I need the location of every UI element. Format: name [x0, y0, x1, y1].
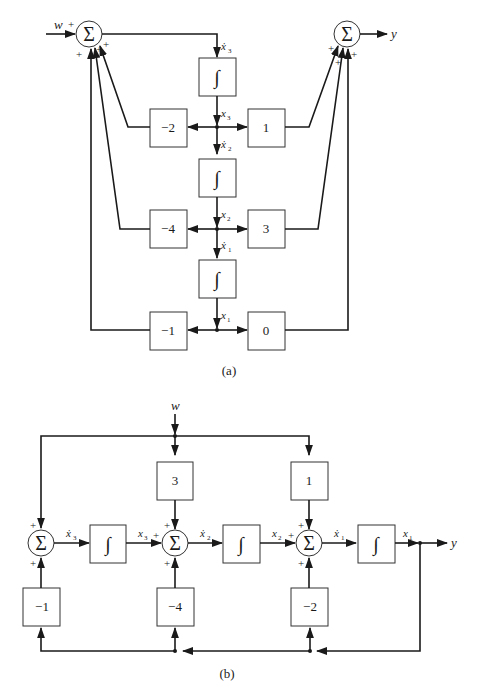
svg-text:1: 1: [227, 316, 231, 324]
gain-block-feedforward-3: 3: [157, 462, 193, 500]
gain-block-left-row2: −4: [150, 210, 187, 248]
sigma-icon: Σ: [341, 23, 353, 45]
svg-text:2: 2: [278, 534, 282, 542]
svg-text:0: 0: [263, 323, 270, 338]
summing-junction-3-b: Σ: [296, 530, 322, 556]
gain-block-feedforward-1: 1: [291, 462, 328, 500]
svg-text:x: x: [220, 208, 226, 220]
svg-text:3: 3: [263, 221, 270, 236]
input-label-a: w: [54, 17, 63, 32]
caption-b: (b): [219, 666, 234, 681]
sigma-icon: Σ: [169, 532, 181, 554]
plus-sign: +: [76, 48, 82, 60]
summing-junction-2-b: Σ: [162, 530, 188, 556]
svg-text:3: 3: [228, 47, 232, 55]
svg-text:1: 1: [306, 473, 313, 488]
svg-text:+: +: [298, 557, 304, 569]
output-label-b: y: [449, 535, 457, 550]
svg-text:2: 2: [228, 145, 232, 153]
block-diagrams: w + Σ + + + ẋ 3 ∫ x 3 −2 1: [0, 0, 483, 700]
svg-text:+: +: [288, 529, 294, 541]
svg-text:3: 3: [172, 473, 179, 488]
plus-sign: +: [68, 18, 74, 30]
svg-text:+: +: [30, 519, 36, 531]
gain-block-right-row3: 0: [248, 312, 285, 350]
svg-text:−4: −4: [168, 599, 182, 614]
gain-block-right-row1: 1: [248, 109, 285, 147]
input-label-b: w: [171, 398, 180, 413]
plus-sign: +: [103, 38, 109, 50]
integrator-block: ∫: [90, 525, 126, 563]
sigma-icon: Σ: [303, 532, 315, 554]
integrator-block: ∫: [358, 525, 395, 563]
svg-text:−2: −2: [161, 120, 175, 135]
svg-text:+: +: [153, 529, 159, 541]
svg-text:3: 3: [227, 114, 231, 122]
svg-text:ẋ: ẋ: [65, 527, 71, 539]
svg-text:ẋ: ẋ: [220, 239, 226, 251]
gain-block-feedback-1: −1: [23, 588, 60, 626]
output-label-a: y: [389, 26, 397, 41]
svg-text:x: x: [271, 527, 277, 539]
plus-sign: +: [351, 48, 357, 60]
svg-text:3: 3: [144, 534, 148, 542]
svg-text:ẋ: ẋ: [220, 138, 226, 150]
gain-block-left-row3: −1: [150, 312, 187, 350]
svg-text:+: +: [30, 557, 36, 569]
svg-text:2: 2: [227, 215, 231, 223]
svg-text:1: 1: [263, 120, 270, 135]
sigma-icon: Σ: [83, 23, 95, 45]
svg-text:x: x: [220, 309, 226, 321]
svg-text:1: 1: [341, 534, 345, 542]
svg-text:3: 3: [73, 534, 77, 542]
plus-sign: +: [328, 42, 334, 54]
gain-block-left-row1: −2: [150, 109, 187, 147]
svg-text:2: 2: [207, 534, 211, 542]
summing-junction-right-a: Σ: [334, 21, 360, 47]
integrator-block: ∫: [199, 260, 236, 298]
svg-text:−1: −1: [161, 323, 175, 338]
integrator-block: ∫: [199, 58, 236, 96]
svg-text:x: x: [402, 527, 408, 539]
plus-sign: +: [335, 56, 341, 68]
gain-block-right-row2: 3: [248, 210, 285, 248]
svg-text:−1: −1: [35, 599, 49, 614]
svg-text:−2: −2: [303, 599, 317, 614]
diagram-a: w + Σ + + + ẋ 3 ∫ x 3 −2 1: [46, 17, 397, 378]
caption-a: (a): [222, 363, 236, 378]
svg-text:+: +: [298, 519, 304, 531]
svg-text:ẋ: ẋ: [199, 527, 205, 539]
sigma-icon: Σ: [35, 532, 47, 554]
svg-text:x: x: [137, 527, 143, 539]
svg-text:x: x: [220, 107, 226, 119]
summing-junction-1-b: Σ: [28, 530, 54, 556]
svg-text:ẋ: ẋ: [333, 527, 339, 539]
svg-text:+: +: [164, 557, 170, 569]
svg-text:+: +: [164, 519, 170, 531]
svg-text:1: 1: [228, 246, 232, 254]
diagram-b: w 3 1 Σ + + ẋ 3 ∫ x: [23, 398, 457, 681]
svg-text:−4: −4: [161, 221, 175, 236]
svg-text:1: 1: [409, 534, 413, 542]
gain-block-feedback-3: −2: [291, 588, 328, 626]
svg-text:ẋ: ẋ: [220, 40, 226, 52]
integrator-block: ∫: [199, 159, 236, 197]
gain-block-feedback-2: −4: [157, 588, 194, 626]
integrator-block: ∫: [223, 525, 260, 563]
